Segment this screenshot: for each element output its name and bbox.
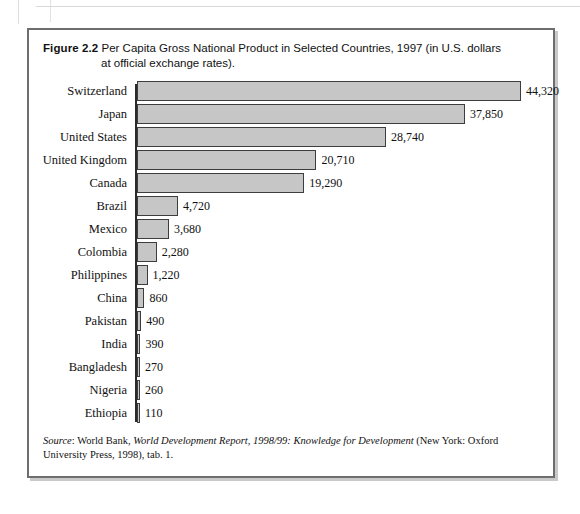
- figure-caption-line-1: Per Capita Gross National Product in Sel…: [102, 42, 502, 54]
- source-prefix: Source: [43, 435, 72, 446]
- bar-row: Pakistan490: [29, 310, 557, 333]
- bar-row: Ethiopia110: [29, 402, 557, 425]
- bar-row: India390: [29, 333, 557, 356]
- category-label: Brazil: [0, 197, 127, 215]
- bar: [137, 357, 140, 377]
- bar-value-label: 37,850: [470, 105, 503, 123]
- bar-row: Nigeria260: [29, 379, 557, 402]
- scan-artifact-tick-left: [18, 0, 19, 24]
- bar-value-label: 3,680: [174, 220, 201, 238]
- bar-value-label: 1,220: [153, 266, 180, 284]
- figure-frame: Figure 2.2 Per Capita Gross National Pro…: [27, 28, 555, 478]
- category-label: Japan: [0, 105, 127, 123]
- bar-row: Canada19,290: [29, 172, 557, 195]
- bar-row: China860: [29, 287, 557, 310]
- bar: [137, 150, 316, 170]
- figure-number-label: Figure 2.2: [43, 42, 98, 54]
- category-label: India: [0, 335, 127, 353]
- scan-artifact-rule: [36, 6, 580, 7]
- category-label: Philippines: [0, 266, 127, 284]
- source-note: Source: World Bank, World Development Re…: [43, 434, 537, 462]
- bar-row: Colombia2,280: [29, 241, 557, 264]
- category-label: Pakistan: [0, 312, 127, 330]
- category-label: China: [0, 289, 127, 307]
- bar-value-label: 390: [145, 335, 163, 353]
- bar: [137, 104, 465, 124]
- source-publisher: World Bank,: [75, 435, 133, 446]
- bar: [137, 334, 140, 354]
- bar-row: Japan37,850: [29, 103, 557, 126]
- category-label: United States: [0, 128, 127, 146]
- bar-row: Switzerland44,320: [29, 80, 557, 103]
- category-label: Canada: [0, 174, 127, 192]
- bar: [137, 288, 144, 308]
- category-label: Switzerland: [0, 82, 127, 100]
- bar: [137, 242, 157, 262]
- bar: [137, 196, 178, 216]
- bar-value-label: 860: [149, 289, 167, 307]
- bar-row: Philippines1,220: [29, 264, 557, 287]
- bar: [137, 265, 148, 285]
- bar-value-label: 20,710: [321, 151, 354, 169]
- bar-row: United States28,740: [29, 126, 557, 149]
- bar: [137, 219, 169, 239]
- bar-value-label: 260: [145, 381, 163, 399]
- bar-row: Mexico3,680: [29, 218, 557, 241]
- bar-row: Bangladesh270: [29, 356, 557, 379]
- bar-value-label: 270: [145, 358, 163, 376]
- bar-row: Brazil4,720: [29, 195, 557, 218]
- category-label: Ethiopia: [0, 404, 127, 422]
- bar-value-label: 28,740: [391, 128, 424, 146]
- figure-caption: Figure 2.2 Per Capita Gross National Pro…: [43, 41, 535, 71]
- bar-chart: Switzerland44,320Japan37,850United State…: [29, 80, 557, 425]
- scan-artifact-tick-left-2: [50, 0, 51, 22]
- bar: [137, 380, 140, 400]
- figure-caption-line-2: at official exchange rates).: [101, 56, 535, 71]
- bar-row: United Kingdom20,710: [29, 149, 557, 172]
- category-label: Colombia: [0, 243, 127, 261]
- category-label: United Kingdom: [0, 151, 127, 169]
- category-label: Nigeria: [0, 381, 127, 399]
- bar: [137, 311, 141, 331]
- bar-rows: Switzerland44,320Japan37,850United State…: [29, 80, 557, 425]
- bar: [137, 81, 521, 101]
- bar: [137, 127, 386, 147]
- bar-value-label: 19,290: [309, 174, 342, 192]
- bar-value-label: 4,720: [183, 197, 210, 215]
- bar-value-label: 2,280: [162, 243, 189, 261]
- category-label: Mexico: [0, 220, 127, 238]
- bar: [137, 403, 140, 423]
- bar-value-label: 490: [146, 312, 164, 330]
- bar-value-label: 44,320: [526, 82, 559, 100]
- bar-value-label: 110: [145, 404, 163, 422]
- bar: [137, 173, 304, 193]
- category-label: Bangladesh: [0, 358, 127, 376]
- source-report-title: World Development Report, 1998/99: Knowl…: [133, 435, 413, 446]
